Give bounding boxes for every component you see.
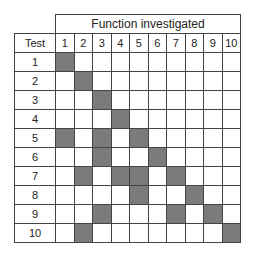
corner-blank [15,15,56,34]
function-column-header: 1 [56,34,75,53]
matrix-cell-empty [130,91,149,110]
matrix-cell-empty [185,148,204,167]
test-row: 1 [15,53,241,72]
matrix-cell-shaded [130,186,149,205]
matrix-cell-empty [222,205,241,224]
matrix-cell-shaded [93,91,112,110]
matrix-cell-empty [74,129,93,148]
matrix-cell-empty [111,148,130,167]
matrix-cell-empty [167,186,186,205]
matrix-cell-empty [167,53,186,72]
matrix-cell-empty [74,91,93,110]
matrix-cell-shaded [130,129,149,148]
matrix-cell-empty [111,205,130,224]
test-column-header: Test [15,34,56,53]
matrix-cell-empty [185,110,204,129]
matrix-cell-shaded [74,167,93,186]
matrix-cell-shaded [56,129,75,148]
matrix-cell-shaded [167,167,186,186]
matrix-cell-empty [222,53,241,72]
test-row: 5 [15,129,241,148]
matrix-cell-empty [167,110,186,129]
function-column-header: 3 [93,34,112,53]
matrix-cell-shaded [93,129,112,148]
matrix-cell-empty [204,91,223,110]
matrix-cell-empty [204,110,223,129]
matrix-cell-empty [185,91,204,110]
test-row: 3 [15,91,241,110]
matrix-cell-empty [111,91,130,110]
matrix-cell-shaded [74,72,93,91]
matrix-cell-empty [56,205,75,224]
matrix-cell-empty [204,129,223,148]
matrix-cell-shaded [111,167,130,186]
matrix-cell-empty [148,186,167,205]
test-row: 9 [15,205,241,224]
matrix-cell-shaded [167,205,186,224]
matrix-cell-empty [74,110,93,129]
matrix-cell-shaded [222,224,241,243]
matrix-cell-empty [130,205,149,224]
matrix-cell-shaded [130,167,149,186]
test-row-label: 9 [15,205,56,224]
test-row: 8 [15,186,241,205]
matrix-cell-empty [56,224,75,243]
matrix-cell-shaded [56,53,75,72]
matrix-cell-empty [130,72,149,91]
matrix-cell-empty [111,129,130,148]
matrix-cell-empty [130,224,149,243]
matrix-cell-empty [148,110,167,129]
function-column-header: 10 [222,34,241,53]
test-row-label: 5 [15,129,56,148]
function-column-header: 2 [74,34,93,53]
matrix-cell-empty [185,167,204,186]
matrix-cell-empty [56,91,75,110]
matrix-cell-empty [56,72,75,91]
function-column-header: 5 [130,34,149,53]
matrix-cell-empty [93,72,112,91]
matrix-cell-empty [130,53,149,72]
matrix-cell-shaded [74,224,93,243]
matrix-cell-empty [167,72,186,91]
matrix-cell-empty [185,72,204,91]
test-row-label: 6 [15,148,56,167]
matrix-cell-empty [93,53,112,72]
matrix-cell-empty [167,224,186,243]
test-row-label: 1 [15,53,56,72]
matrix-cell-empty [93,167,112,186]
test-function-matrix: Function investigated Test 12345678910 1… [14,14,241,243]
matrix-cell-empty [148,224,167,243]
matrix-cell-empty [74,53,93,72]
test-row: 2 [15,72,241,91]
matrix-cell-empty [222,129,241,148]
matrix-cell-empty [148,72,167,91]
matrix-cell-empty [56,167,75,186]
matrix-cell-shaded [93,205,112,224]
matrix-cell-empty [111,224,130,243]
test-row-label: 4 [15,110,56,129]
matrix-cell-empty [185,129,204,148]
test-row-label: 10 [15,224,56,243]
matrix-cell-empty [148,53,167,72]
matrix-cell-empty [167,148,186,167]
function-column-header: 9 [204,34,223,53]
matrix-cell-empty [148,167,167,186]
matrix-cell-empty [204,148,223,167]
test-row-label: 2 [15,72,56,91]
function-column-header: 6 [148,34,167,53]
matrix-cell-empty [111,186,130,205]
function-column-header: 7 [167,34,186,53]
matrix-cell-empty [148,129,167,148]
matrix-cell-empty [93,224,112,243]
matrix-cell-empty [93,186,112,205]
test-row: 4 [15,110,241,129]
matrix-cell-empty [148,91,167,110]
matrix-cell-shaded [185,186,204,205]
matrix-cell-empty [167,91,186,110]
function-column-header: 8 [185,34,204,53]
matrix-cell-empty [56,148,75,167]
test-row-label: 7 [15,167,56,186]
matrix-cell-empty [111,53,130,72]
function-investigated-title: Function investigated [56,15,241,34]
matrix-cell-empty [222,148,241,167]
